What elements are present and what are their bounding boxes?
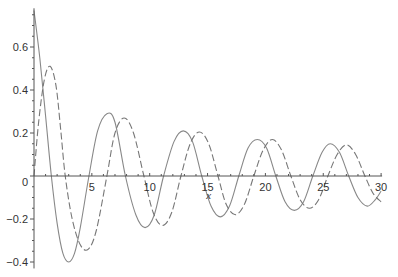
y-tick-label: −0.4 <box>6 256 28 268</box>
y-tick-label: −0.2 <box>6 213 28 225</box>
series-dashed-line <box>34 66 381 250</box>
y-tick-label: 0 <box>22 176 28 188</box>
y-tick-label: 0.2 <box>13 127 28 139</box>
x-axis-label: x <box>205 189 211 201</box>
x-tick-label: 5 <box>89 181 95 193</box>
line-chart: 51015202530 0.60.40.20−0.2−0.4 x <box>0 0 398 277</box>
y-tick-label: 0.4 <box>13 84 28 96</box>
x-tick-label: 20 <box>259 181 271 193</box>
x-tick-label: 10 <box>144 181 156 193</box>
y-tick-label: 0.6 <box>13 41 28 53</box>
series-solid-line <box>34 10 381 262</box>
x-tick-label: 25 <box>317 181 329 193</box>
y-ticks: 0.60.40.20−0.2−0.4 <box>6 15 34 268</box>
x-tick-label: 30 <box>375 181 387 193</box>
axes: 51015202530 0.60.40.20−0.2−0.4 x <box>6 8 387 268</box>
series-layer <box>34 10 381 262</box>
